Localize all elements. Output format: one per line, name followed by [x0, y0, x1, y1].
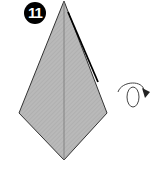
origami-diagram	[0, 0, 155, 171]
turn-over-arrow-icon	[118, 83, 150, 107]
kite-shape	[19, 1, 107, 160]
